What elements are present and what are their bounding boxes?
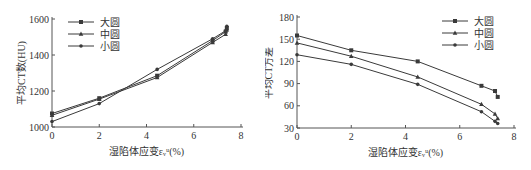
legend-marker-icon xyxy=(79,20,83,24)
data-point-marker xyxy=(349,63,353,67)
legend-item: 大圆 xyxy=(68,16,120,28)
data-point-marker xyxy=(416,83,420,87)
series-1 xyxy=(50,26,229,116)
legend: 大圆中圆小圆 xyxy=(442,15,494,51)
series-line xyxy=(52,26,227,121)
y-axis-label: 平均CT数(HU) xyxy=(15,41,28,105)
data-point-marker xyxy=(211,37,215,41)
data-point-marker xyxy=(50,120,54,124)
data-point-marker xyxy=(97,102,101,106)
data-point-marker xyxy=(496,122,500,126)
y-tick-label: 180 xyxy=(279,12,294,23)
legend-label: 小圆 xyxy=(474,40,494,51)
x-tick-label: 0 xyxy=(295,131,300,142)
y-tick-label: 1400 xyxy=(29,50,49,61)
legend-item: 大圆 xyxy=(442,15,494,27)
legend-label: 大圆 xyxy=(100,16,120,28)
y-tick-label: 1200 xyxy=(29,86,49,97)
legend-marker-icon xyxy=(453,43,457,47)
data-point-marker xyxy=(295,34,299,38)
legend-marker-icon xyxy=(453,19,457,23)
data-point-marker xyxy=(479,84,483,88)
data-point-marker xyxy=(493,89,497,93)
y-tick-label: 30 xyxy=(284,123,294,134)
legend-label: 中圆 xyxy=(100,28,120,40)
legend-item: 中圆 xyxy=(442,27,494,39)
legend-item: 小圆 xyxy=(68,41,120,52)
x-tick-label: 6 xyxy=(191,130,196,141)
data-point-marker xyxy=(295,53,299,57)
y-tick-label: 60 xyxy=(284,100,294,111)
legend: 大圆中圆小圆 xyxy=(68,16,120,52)
legend-label: 大圆 xyxy=(474,15,494,27)
x-tick-label: 6 xyxy=(457,131,462,142)
data-point-marker xyxy=(496,95,500,99)
series-1 xyxy=(295,34,500,99)
legend-label: 中圆 xyxy=(474,27,494,39)
x-axis-label: 湿陷体应变εᵥᵘ(%) xyxy=(109,145,184,158)
x-tick-label: 2 xyxy=(349,131,354,142)
series-2 xyxy=(295,40,500,120)
x-tick-label: 0 xyxy=(50,130,55,141)
data-point-marker xyxy=(155,68,159,72)
data-point-marker xyxy=(493,111,498,115)
series-3 xyxy=(295,53,499,125)
chart-mean-ct-number: 024681000120014001600湿陷体应变εᵥᵘ(%)平均CT数(HU… xyxy=(0,0,265,170)
series-2 xyxy=(50,27,229,117)
legend-label: 小圆 xyxy=(100,41,120,52)
chart-right-svg: 02468306090120150180湿陷体应变εᵥᵘ(%)平均CT方差大圆中… xyxy=(265,0,531,170)
data-point-marker xyxy=(416,59,420,63)
data-point-marker xyxy=(295,40,300,44)
series-line xyxy=(297,55,498,124)
x-tick-label: 4 xyxy=(144,130,149,141)
x-tick-label: 8 xyxy=(512,131,517,142)
y-tick-label: 150 xyxy=(279,34,294,45)
data-point-marker xyxy=(480,110,484,114)
chart-mean-ct-variance: 02468306090120150180湿陷体应变εᵥᵘ(%)平均CT方差大圆中… xyxy=(265,0,531,170)
series-3 xyxy=(50,24,228,123)
y-tick-label: 120 xyxy=(279,56,294,67)
legend-item: 中圆 xyxy=(68,28,120,40)
y-tick-label: 90 xyxy=(284,78,294,89)
x-tick-label: 8 xyxy=(239,130,244,141)
x-tick-label: 2 xyxy=(97,130,102,141)
x-tick-label: 4 xyxy=(403,131,408,142)
x-axis-label: 湿陷体应变εᵥᵘ(%) xyxy=(368,146,443,159)
y-axis-label: 平均CT方差 xyxy=(265,47,274,100)
y-tick-label: 1600 xyxy=(29,14,49,25)
legend-item: 小圆 xyxy=(442,40,494,51)
series-line xyxy=(52,30,227,116)
data-point-marker xyxy=(224,29,228,33)
series-line xyxy=(52,28,227,114)
chart-left-svg: 024681000120014001600湿陷体应变εᵥᵘ(%)平均CT数(HU… xyxy=(0,0,265,170)
legend-marker-icon xyxy=(79,44,83,48)
data-point-marker xyxy=(349,48,353,52)
data-point-marker xyxy=(225,24,229,28)
y-tick-label: 1000 xyxy=(29,122,49,133)
